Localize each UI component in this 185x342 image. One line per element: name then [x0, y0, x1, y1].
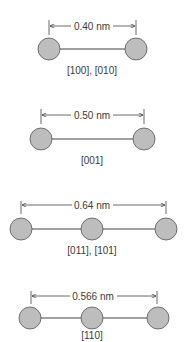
atom-icon — [125, 38, 147, 60]
atom-icon — [10, 218, 32, 240]
atom-icon — [155, 218, 177, 240]
diagram-110: 0.566 nm [110] — [19, 291, 169, 341]
atom-icon — [30, 128, 52, 150]
atom-icon — [133, 128, 155, 150]
atom-icon — [38, 38, 60, 60]
distance-label: 0.64 nm — [74, 200, 110, 211]
atom-icon — [81, 307, 103, 329]
diagram-100-010: 0.40 nm [100], [010] — [38, 20, 147, 76]
distance-label: 0.40 nm — [74, 21, 110, 32]
atom-icon — [147, 307, 169, 329]
direction-label: [011], [101] — [67, 245, 117, 256]
diagram-001: 0.50 nm [001] — [30, 109, 155, 166]
direction-label: [110] — [81, 330, 103, 341]
atom-icon — [19, 307, 41, 329]
direction-label: [001] — [81, 155, 103, 166]
direction-label: [100], [010] — [67, 65, 117, 76]
distance-label: 0.566 nm — [72, 291, 114, 302]
distance-label: 0.50 nm — [74, 110, 110, 121]
diagram-011-101: 0.64 nm [011], [101] — [10, 200, 177, 256]
linear-density-diagrams: 0.40 nm [100], [010] 0.50 nm [001] 0.64 … — [0, 0, 185, 342]
atom-icon — [81, 218, 103, 240]
